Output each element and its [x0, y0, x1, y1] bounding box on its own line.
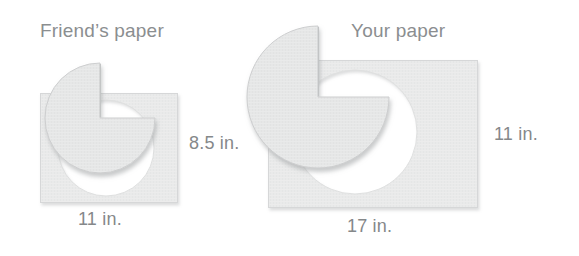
- right-width-label: 17 in.: [347, 216, 392, 237]
- paper-comparison-figure: Friend’s paper Your paper 8.5 in. 11 in.…: [0, 0, 579, 256]
- left-width-label: 11 in.: [78, 209, 122, 230]
- left-figure-title: Friend’s paper: [40, 20, 164, 42]
- right-height-label: 11 in.: [494, 124, 538, 145]
- left-height-label: 8.5 in.: [189, 133, 239, 154]
- right-figure-title: Your paper: [351, 20, 445, 42]
- left-paper-group: [40, 63, 178, 203]
- right-paper-group: [247, 26, 478, 208]
